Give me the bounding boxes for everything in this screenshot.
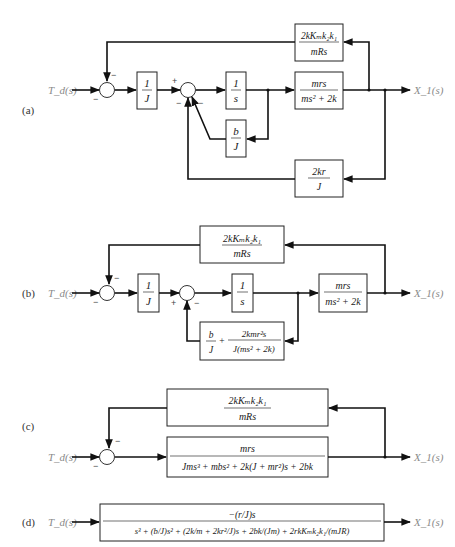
svg-text:s³ + (b/J)s² + (2k/m + 2kr²/J): s³ + (b/J)s² + (2k/m + 2kr²/J)s + 2bk/(J… <box>135 526 350 536</box>
svg-text:2kmr²s: 2kmr²s <box>242 329 267 339</box>
panel-c: (c) T_d(s) mrs Jms³ + mbs² + 2k(J + mr²)… <box>22 389 444 477</box>
svg-text:1: 1 <box>146 279 152 291</box>
svg-text:mrs: mrs <box>240 443 255 454</box>
svg-text:s: s <box>234 92 238 104</box>
panel-a-label: (a) <box>22 104 35 117</box>
svg-text:2kKₘk₂k₁: 2kKₘk₂k₁ <box>228 395 266 406</box>
summing-junction-2 <box>181 83 196 98</box>
svg-text:−: − <box>176 98 181 108</box>
summing-junction-2 <box>180 286 195 301</box>
svg-text:−: − <box>114 273 119 283</box>
svg-text:J: J <box>317 181 322 192</box>
svg-text:−: − <box>111 70 116 80</box>
svg-text:b: b <box>209 330 214 340</box>
summing-junction <box>100 450 115 465</box>
svg-text:b: b <box>233 125 239 137</box>
summing-junction-1 <box>100 83 115 98</box>
output-signal-label: X_1(s) <box>413 516 444 529</box>
svg-text:1: 1 <box>144 77 150 89</box>
summing-junction-1 <box>100 286 115 301</box>
output-signal-label: X_1(s) <box>413 84 444 97</box>
block-diagram-canvas: (a) T_d(s) 1 J 1 s mrs ms² + 2k X_1(s) 2… <box>0 0 455 547</box>
svg-text:−: − <box>93 461 98 471</box>
svg-text:mRs: mRs <box>311 47 328 57</box>
svg-text:2kr: 2kr <box>312 166 325 177</box>
panel-b-label: (b) <box>22 287 35 300</box>
panel-a: (a) T_d(s) 1 J 1 s mrs ms² + 2k X_1(s) 2… <box>22 24 444 197</box>
svg-text:−: − <box>194 298 199 308</box>
svg-text:2kKₘk₂k₁: 2kKₘk₂k₁ <box>301 31 337 41</box>
panel-d-label: (d) <box>22 516 35 529</box>
svg-text:1: 1 <box>233 77 239 89</box>
svg-text:Jms³ + mbs² + 2k(J + mr²)s + 2: Jms³ + mbs² + 2k(J + mr²)s + 2bk <box>182 462 314 473</box>
panel-c-label: (c) <box>22 420 35 433</box>
svg-text:mrs: mrs <box>335 280 350 291</box>
svg-text:s: s <box>240 295 244 307</box>
svg-text:2kKₘk₂k₁: 2kKₘk₂k₁ <box>223 233 261 244</box>
svg-text:1: 1 <box>240 279 246 291</box>
svg-text:−: − <box>93 94 98 104</box>
svg-text:−(r/J)s: −(r/J)s <box>229 510 256 521</box>
output-signal-label: X_1(s) <box>413 451 444 464</box>
svg-text:−: − <box>115 436 120 446</box>
panel-b: (b) T_d(s) 1 J 1 s mrs ms² + 2k X_1(s) 2… <box>22 226 444 360</box>
svg-text:+: + <box>172 76 177 86</box>
svg-text:ms² + 2k: ms² + 2k <box>325 296 361 307</box>
svg-text:ms² + 2k: ms² + 2k <box>301 93 337 104</box>
svg-text:mRs: mRs <box>239 411 256 422</box>
svg-text:+: + <box>171 298 176 308</box>
svg-text:+: + <box>219 336 224 346</box>
svg-text:J(ms² + 2k): J(ms² + 2k) <box>233 344 275 354</box>
svg-text:mRs: mRs <box>233 248 250 259</box>
svg-text:mrs: mrs <box>311 78 326 89</box>
svg-text:−: − <box>198 98 203 108</box>
panel-d: (d) T_d(s) −(r/J)s s³ + (b/J)s² + (2k/m … <box>22 504 444 541</box>
svg-text:−: − <box>93 297 98 307</box>
output-signal-label: X_1(s) <box>413 287 444 300</box>
